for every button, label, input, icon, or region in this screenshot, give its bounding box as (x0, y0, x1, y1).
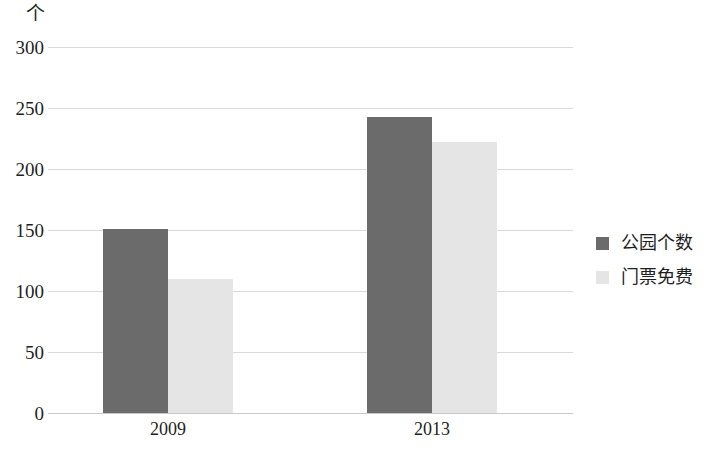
plot-area (48, 47, 573, 413)
bar-2009-门票免费[interactable] (168, 279, 233, 413)
bar-2009-公园个数[interactable] (103, 229, 168, 413)
x-tick-label-2013: 2013 (382, 419, 482, 439)
y-tick-label-50: 50 (0, 343, 44, 362)
y-tick-label-250: 250 (0, 99, 44, 118)
gridline-300 (48, 47, 573, 48)
bar-2013-门票免费[interactable] (432, 142, 497, 413)
bar-2013-公园个数[interactable] (367, 117, 432, 413)
gridline-250 (48, 108, 573, 109)
x-tick-label-2009: 2009 (118, 419, 218, 439)
legend-swatch-icon-门票免费 (596, 271, 609, 284)
legend-swatch-icon-公园个数 (596, 237, 609, 250)
y-tick-label-0: 0 (0, 404, 44, 423)
y-tick-label-100: 100 (0, 282, 44, 301)
y-tick-label-150: 150 (0, 221, 44, 240)
legend-item-门票免费[interactable]: 门票免费 (596, 260, 711, 294)
legend-label-门票免费: 门票免费 (621, 267, 693, 287)
chart-legend: 公园个数门票免费 (596, 226, 711, 294)
y-axis-unit-label: 个 (26, 2, 45, 24)
legend-item-公园个数[interactable]: 公园个数 (596, 226, 711, 260)
y-axis-tick-labels: 050100150200250300 (0, 47, 44, 413)
y-tick-label-300: 300 (0, 38, 44, 57)
y-tick-label-200: 200 (0, 160, 44, 179)
bar-chart: 个 050100150200250300 20092013 公园个数门票免费 (0, 0, 713, 449)
legend-label-公园个数: 公园个数 (621, 233, 693, 253)
